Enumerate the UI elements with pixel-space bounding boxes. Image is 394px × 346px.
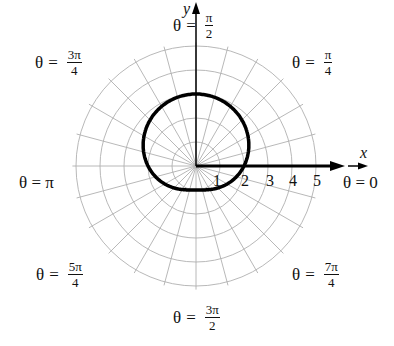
angle-label-pi: θ = π [19,174,54,191]
radial-tick-3: 3 [266,172,274,190]
angle-label-5pi-4: θ= 5π4 [36,260,83,289]
angle-label-7pi-4: θ= 7π4 [292,260,339,289]
angle-label-pi-4: θ= π4 [292,48,332,77]
radial-tick-1: 1 [213,172,221,190]
radial-tick-2: 2 [241,172,249,190]
radial-tick-5: 5 [313,172,321,190]
angle-label-3pi-2: θ= 3π2 [173,303,220,332]
angle-label-3pi-4: θ= 3π4 [35,48,82,77]
x-axis-label: x [360,144,367,162]
angle-label-0: θ = 0 [343,174,378,191]
angle-label-pi-2: θ= π2 [173,11,213,40]
polar-axis [192,2,368,171]
radial-tick-4: 4 [289,172,297,190]
